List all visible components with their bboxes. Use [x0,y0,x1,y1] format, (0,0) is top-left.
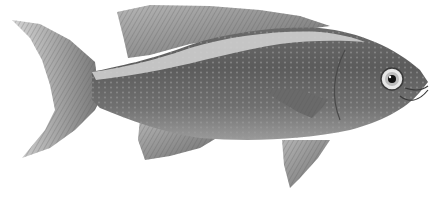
pelvic-fin [282,140,330,188]
fish-drawing [0,0,444,201]
fish-eye [381,68,403,90]
caudal-fin [12,20,100,158]
